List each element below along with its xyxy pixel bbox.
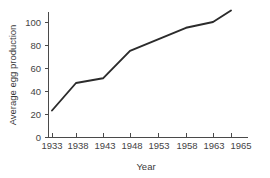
line-chart-figure: 100 80 60 40 20 0 1933 1938 1943 1948 19… <box>0 0 270 178</box>
x-tick-label-1953: 1953 <box>148 140 169 151</box>
x-tick-label-1958: 1958 <box>176 140 197 151</box>
y-tick-label-20: 20 <box>30 109 41 120</box>
y-tick-label-60: 60 <box>30 63 41 74</box>
y-tick-label-40: 40 <box>30 86 41 97</box>
x-tick-label-1933: 1933 <box>41 140 62 151</box>
y-tick-label-100: 100 <box>25 17 41 28</box>
chart-canvas: 100 80 60 40 20 0 1933 1938 1943 1948 19… <box>0 0 270 178</box>
y-tick-label-0: 0 <box>36 132 41 143</box>
y-tick-marks <box>45 23 49 138</box>
x-tick-label-1963: 1963 <box>203 140 224 151</box>
y-tick-label-80: 80 <box>30 40 41 51</box>
x-tick-label-1948: 1948 <box>121 140 142 151</box>
x-tick-label-1943: 1943 <box>94 140 115 151</box>
x-axis-title: Year <box>136 161 155 172</box>
x-tick-label-1938: 1938 <box>67 140 88 151</box>
y-axis-title: Average egg production <box>7 25 18 126</box>
egg-production-line <box>52 11 231 111</box>
x-tick-marks <box>53 133 232 138</box>
x-tick-label-1965: 1965 <box>230 140 251 151</box>
